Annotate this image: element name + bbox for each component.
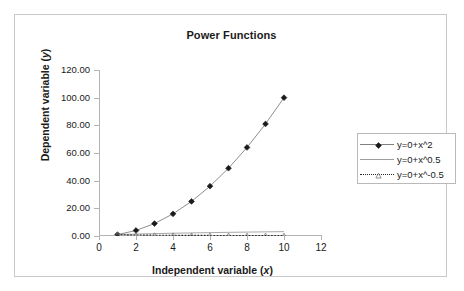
x-axis-title-suffix: ) xyxy=(269,264,273,276)
legend-label: y=0+x^-0.5 xyxy=(397,169,444,180)
x-axis-tick-label: 2 xyxy=(124,242,148,253)
plot-area xyxy=(99,70,321,236)
series-2 xyxy=(118,232,285,235)
x-axis-tick-label: 12 xyxy=(309,242,333,253)
data-point-marker xyxy=(208,233,213,236)
x-axis-tick-label: 8 xyxy=(235,242,259,253)
chart-title: Power Functions xyxy=(15,29,448,41)
data-point-marker xyxy=(226,233,231,236)
series-line xyxy=(118,235,285,236)
legend-triangle-icon xyxy=(374,171,383,180)
x-axis-tick-label: 4 xyxy=(161,242,185,253)
x-axis-tick-label: 6 xyxy=(198,242,222,253)
y-axis-tick-label: 100.00 xyxy=(42,92,90,103)
series-1 xyxy=(115,95,287,236)
y-axis-tick-label: 60.00 xyxy=(42,147,90,158)
y-axis-tick-label: 40.00 xyxy=(42,175,90,186)
legend-key xyxy=(358,154,396,166)
legend: y=0+x^2y=0+x^0.5y=0+x^-0.5 xyxy=(357,133,456,184)
series-line xyxy=(118,232,285,235)
y-axis-title-suffix: ) xyxy=(39,49,51,53)
y-axis-title-variable: y xyxy=(39,52,51,58)
y-axis-tick-label: 120.00 xyxy=(42,64,90,75)
series-line xyxy=(118,98,285,235)
y-axis-tick-label: 0.00 xyxy=(42,230,90,241)
legend-item-2[interactable]: y=0+x^0.5 xyxy=(358,152,457,167)
y-axis-tick-label: 80.00 xyxy=(42,119,90,130)
x-axis-tick-label: 0 xyxy=(87,242,111,253)
x-axis-tick-label: 10 xyxy=(272,242,296,253)
y-axis-tick-label: 20.00 xyxy=(42,202,90,213)
chart-frame: Power Functions Dependent variable (y) I… xyxy=(14,14,447,277)
data-point-marker xyxy=(281,95,287,101)
legend-label: y=0+x^0.5 xyxy=(397,154,441,165)
legend-key xyxy=(358,139,396,151)
legend-diamond-icon xyxy=(374,141,383,150)
data-point-marker xyxy=(170,211,176,217)
legend-item-3[interactable]: y=0+x^-0.5 xyxy=(358,167,457,182)
legend-line-swatch xyxy=(360,159,394,160)
legend-label: y=0+x^2 xyxy=(397,139,433,150)
y-axis-title: Dependent variable (y) xyxy=(39,15,51,195)
data-series-layer xyxy=(99,70,321,236)
data-point-marker xyxy=(282,233,287,236)
legend-item-1[interactable]: y=0+x^2 xyxy=(358,137,457,152)
x-axis-title: Independent variable (x) xyxy=(15,264,410,276)
legend-key xyxy=(358,169,396,181)
data-point-marker xyxy=(152,221,158,227)
chart-image: Power Functions Dependent variable (y) I… xyxy=(0,0,464,291)
x-axis-tick xyxy=(321,235,322,240)
x-axis-title-prefix: Independent variable ( xyxy=(152,264,263,276)
